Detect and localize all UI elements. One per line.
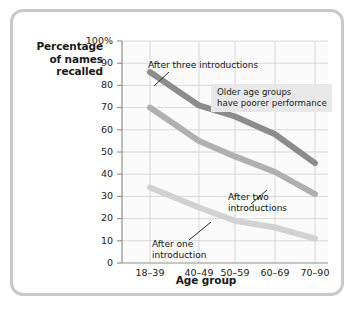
- y-tick-label-10: 10: [81, 235, 113, 246]
- series-label-after-two-introductions: After two introductions: [228, 192, 287, 214]
- y-tick-label-60: 60: [81, 124, 113, 135]
- y-tick-label-40: 40: [81, 168, 113, 179]
- series-label-after-three-introductions: After three introductions: [148, 60, 258, 71]
- series-label-one-line-1: After one: [152, 239, 206, 250]
- y-tick-marks: [117, 41, 122, 263]
- y-tick-label-100: 100%: [81, 35, 113, 46]
- x-tick-label-18-39: 18–39: [127, 267, 173, 278]
- series-label-one-line-2: introduction: [152, 250, 206, 261]
- line-chart-figure-card: Percentage of names recalled Age group 1…: [10, 9, 344, 296]
- x-tick-label-70-90: 70–90: [292, 267, 338, 278]
- series-label-two-line-2: introductions: [228, 203, 287, 214]
- y-tick-label-30: 30: [81, 190, 113, 201]
- y-tick-label-80: 80: [81, 79, 113, 90]
- callout-annotation-box: Older age groups have poorer performance: [211, 84, 332, 112]
- y-tick-label-90: 90: [81, 57, 113, 68]
- y-tick-label-50: 50: [81, 146, 113, 157]
- y-tick-label-20: 20: [81, 212, 113, 223]
- y-tick-label-70: 70: [81, 101, 113, 112]
- chart-plot-region: Percentage of names recalled Age group 1…: [13, 12, 347, 299]
- y-tick-label-0: 0: [81, 257, 113, 268]
- series-label-two-line-1: After two: [228, 192, 287, 203]
- series-label-after-one-introduction: After one introduction: [152, 239, 206, 261]
- callout-line-2: have poorer performance: [217, 98, 327, 109]
- callout-line-1: Older age groups: [217, 87, 327, 98]
